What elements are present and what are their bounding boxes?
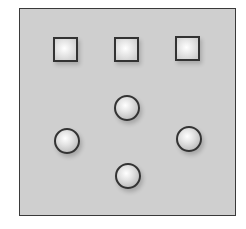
sphere-top bbox=[114, 95, 140, 121]
square-shape-3 bbox=[175, 36, 200, 61]
diagram-panel bbox=[19, 8, 236, 216]
sphere-left bbox=[54, 128, 80, 154]
square-shape-1 bbox=[53, 37, 78, 62]
sphere-right bbox=[176, 126, 202, 152]
square-shape-2 bbox=[114, 37, 139, 62]
sphere-bottom bbox=[115, 163, 141, 189]
